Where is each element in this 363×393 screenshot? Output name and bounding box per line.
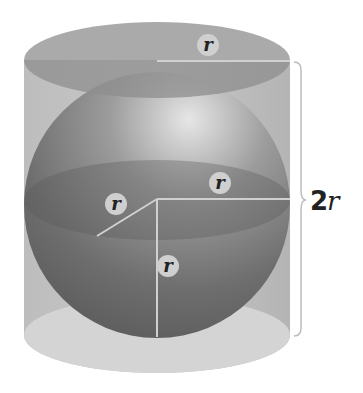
vertical-radius-label: r [157, 255, 179, 277]
svg-text:r: r [215, 172, 226, 193]
svg-text:r: r [111, 193, 122, 214]
equator-radius-label: r [209, 172, 231, 194]
height-brace [294, 62, 306, 336]
sphere-cylinder-diagram: r r r r 2 r [0, 0, 363, 393]
top-radius-label: r [197, 34, 219, 56]
depth-radius-label: r [105, 193, 127, 215]
svg-text:2: 2 [310, 186, 328, 216]
svg-text:r: r [163, 255, 174, 276]
height-label: 2 r [310, 186, 341, 216]
svg-text:r: r [203, 34, 214, 55]
svg-text:r: r [327, 186, 341, 216]
